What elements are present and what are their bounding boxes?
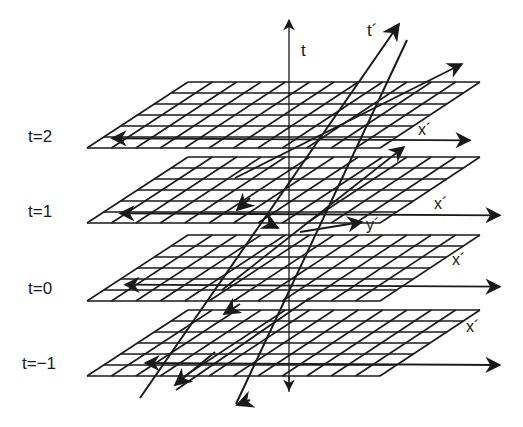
plane-0 [87,82,480,148]
downward-arrow-left [175,352,215,385]
plane-1 [87,157,500,223]
x-prime-label-tminus1: x´ [466,318,479,335]
plane-3 [87,310,500,376]
x-prime-label-t2: x´ [418,121,431,138]
tilted-t-axis-label: t´ [367,21,377,40]
t-axis-label: t [301,41,306,60]
plane-label-t1: t=1 [28,202,52,221]
downward-arrow-center [270,224,278,228]
plane-label-t2: t=2 [28,127,52,146]
plane-label-tminus1: t=−1 [22,354,56,373]
x-prime-axis [120,213,500,215]
simultaneity-planes [87,82,500,376]
worldline-down-1 [237,400,250,405]
spacetime-diagram: t t´ y´ t=2 t=1 t=0 t=−1 x´ x´ x´ x´ [0,0,523,427]
x-prime-label-t0: x´ [452,251,465,268]
x-prime-axis [112,138,470,140]
plane-label-t0: t=0 [28,279,52,298]
plane-2 [87,235,500,301]
y-prime-label: y´ [366,216,379,233]
x-prime-label-t1: x´ [434,195,447,212]
